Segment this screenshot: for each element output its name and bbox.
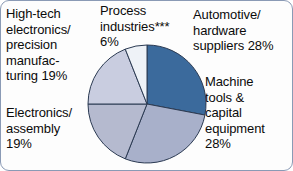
pie-chart-figure: High-tech electronics/ precision manufac… xyxy=(0,0,293,171)
pie-slice-group: Automotive/hardware suppliers 28%Machine… xyxy=(88,45,206,163)
pie-svg: Automotive/hardware suppliers 28%Machine… xyxy=(87,44,207,164)
pie-slice: Automotive/hardware suppliers 28% xyxy=(147,45,206,115)
slice-label-high-tech-electronics: High-tech electronics/ precision manufac… xyxy=(6,6,98,84)
pie-graphic: Automotive/hardware suppliers 28%Machine… xyxy=(87,44,207,164)
slice-label-automotive-hardware-suppliers: Automotive/ hardware suppliers 28% xyxy=(193,7,292,54)
slice-label-process-industries: Process industries*** 6% xyxy=(100,3,192,50)
slice-label-electronics-assembly: Electronics/ assembly 19% xyxy=(6,105,98,152)
slice-label-machine-tools-capital-equipment: Machine tools & capital equipment 28% xyxy=(205,74,291,152)
